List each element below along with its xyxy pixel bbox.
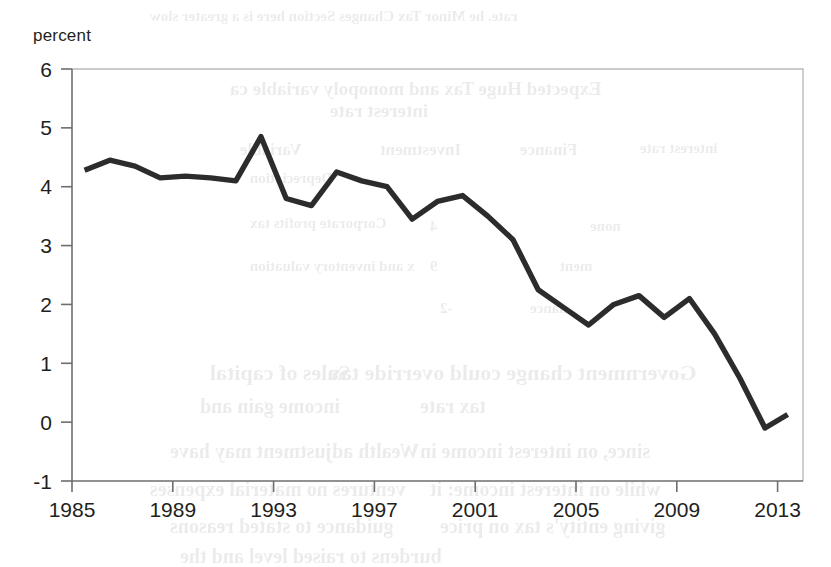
- y-tick-label: -1: [33, 470, 52, 493]
- x-tick-label: 2001: [452, 498, 499, 521]
- y-tick-label: 0: [40, 411, 52, 434]
- y-tick-label: 6: [40, 58, 52, 81]
- y-tick-label: 4: [40, 175, 52, 198]
- data-series-group: [85, 137, 788, 428]
- plot-border: [72, 69, 803, 481]
- series-line-percent: [85, 137, 788, 428]
- x-tick-label: 1985: [49, 498, 96, 521]
- y-axis-ticks: 6543210-1: [33, 58, 72, 493]
- y-tick-label: 2: [40, 293, 52, 316]
- x-tick-label: 2005: [553, 498, 600, 521]
- x-tick-label: 2009: [653, 498, 700, 521]
- y-tick-label: 1: [40, 352, 52, 375]
- plot-frame: [72, 69, 803, 481]
- x-axis-ticks: 19851989199319972001200520092013: [49, 481, 801, 521]
- x-tick-label: 2013: [754, 498, 801, 521]
- x-tick-label: 1997: [351, 498, 398, 521]
- x-tick-label: 1993: [250, 498, 297, 521]
- x-tick-label: 1989: [149, 498, 196, 521]
- y-tick-label: 5: [40, 116, 52, 139]
- y-tick-label: 3: [40, 234, 52, 257]
